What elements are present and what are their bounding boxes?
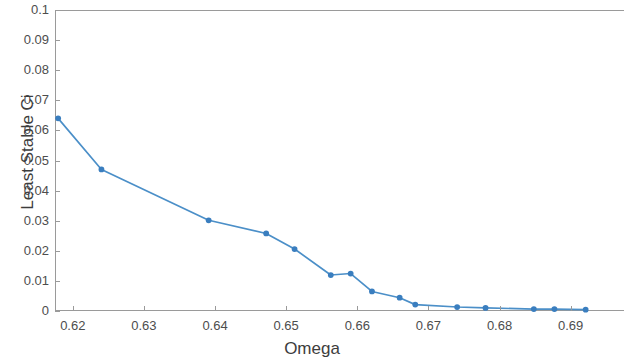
data-point-marker bbox=[292, 246, 298, 252]
y-tick-label: 0 bbox=[42, 304, 49, 317]
data-point-marker bbox=[483, 305, 489, 311]
data-point-marker bbox=[397, 295, 403, 301]
data-point-marker bbox=[206, 217, 212, 223]
data-point-marker bbox=[55, 115, 61, 121]
series-line bbox=[58, 118, 586, 309]
x-tick-label: 0.68 bbox=[487, 319, 512, 332]
data-point-marker bbox=[369, 289, 375, 295]
y-axis-title: Least Stable Ci bbox=[18, 62, 38, 242]
x-tick-label: 0.66 bbox=[345, 319, 370, 332]
y-tick-mark bbox=[55, 130, 60, 131]
x-tick-mark bbox=[286, 306, 287, 311]
x-axis-title: Omega bbox=[0, 339, 624, 359]
x-tick-label: 0.69 bbox=[558, 319, 583, 332]
x-tick-label: 0.67 bbox=[416, 319, 441, 332]
x-tick-label: 0.63 bbox=[131, 319, 156, 332]
data-point-marker bbox=[263, 231, 269, 237]
data-point-marker bbox=[412, 302, 418, 308]
x-tick-label: 0.65 bbox=[274, 319, 299, 332]
y-tick-mark bbox=[55, 251, 60, 252]
data-point-marker bbox=[328, 272, 334, 278]
data-point-marker bbox=[99, 167, 105, 173]
data-point-marker bbox=[348, 271, 354, 277]
y-tick-mark bbox=[55, 70, 60, 71]
y-tick-label: 0.1 bbox=[31, 3, 49, 16]
y-tick-mark bbox=[55, 281, 60, 282]
y-tick-label: 0.09 bbox=[24, 33, 49, 46]
data-point-marker bbox=[454, 304, 460, 310]
plot-area bbox=[55, 10, 624, 311]
chart-figure: 00.010.020.030.040.050.060.070.080.090.1… bbox=[0, 0, 624, 363]
data-point-marker bbox=[583, 307, 589, 313]
data-series-line bbox=[56, 11, 624, 310]
y-tick-mark bbox=[55, 100, 60, 101]
y-tick-mark bbox=[55, 311, 60, 312]
y-tick-mark bbox=[55, 191, 60, 192]
x-tick-mark bbox=[144, 306, 145, 311]
x-tick-mark bbox=[357, 306, 358, 311]
y-tick-mark bbox=[55, 221, 60, 222]
x-tick-mark bbox=[73, 306, 74, 311]
data-point-marker bbox=[552, 306, 558, 312]
data-point-marker bbox=[531, 306, 537, 312]
y-tick-mark bbox=[55, 40, 60, 41]
y-tick-label: 0.02 bbox=[24, 244, 49, 257]
y-tick-mark bbox=[55, 161, 60, 162]
x-tick-label: 0.64 bbox=[202, 319, 227, 332]
x-tick-mark bbox=[571, 306, 572, 311]
y-tick-mark bbox=[55, 10, 60, 11]
x-tick-mark bbox=[215, 306, 216, 311]
x-tick-mark bbox=[500, 306, 501, 311]
y-tick-label: 0.01 bbox=[24, 274, 49, 287]
x-tick-mark bbox=[428, 306, 429, 311]
x-tick-label: 0.62 bbox=[60, 319, 85, 332]
